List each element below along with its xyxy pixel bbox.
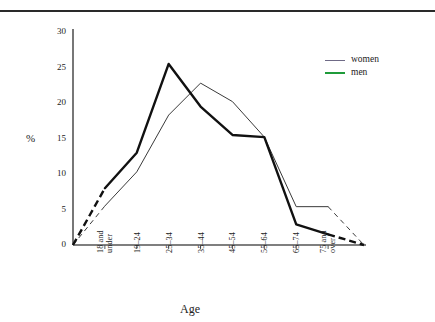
x-axis-tick-label-line: 18 and (96, 230, 105, 253)
legend-swatch-women (325, 60, 345, 61)
legend-label: men (351, 67, 367, 78)
y-axis-tick-label: 5 (44, 205, 66, 214)
top-horizontal-rule (0, 10, 435, 12)
y-axis-label: % (26, 132, 35, 144)
chart-legend: womenmen (325, 55, 425, 81)
x-axis-tick-label-line: over (328, 207, 337, 253)
y-axis-tick-label: 20 (44, 98, 66, 107)
x-axis-tick-label-line: 75 and (319, 230, 328, 253)
x-axis-tick-label: 55–64 (260, 232, 269, 253)
x-axis-tick-label-line: under (105, 207, 114, 253)
x-axis-tick-label: 65–74 (292, 232, 301, 253)
legend-item-women[interactable]: women (325, 55, 425, 66)
y-axis-tick-label: 15 (44, 134, 66, 143)
x-axis-tick-label-line: 55–64 (260, 232, 269, 253)
x-axis-tick-label: 25–34 (165, 232, 174, 253)
x-axis-tick-label: 18 andunder (96, 207, 114, 253)
x-axis-tick-label: 35–44 (197, 232, 206, 253)
y-axis-tick-label: 25 (44, 63, 66, 72)
y-axis-tick-label: 30 (44, 27, 66, 36)
legend-swatch-men (325, 72, 345, 74)
legend-item-men[interactable]: men (325, 68, 425, 79)
line-chart-figure: 302520151050 % 18 andunder19–2425–3435–4… (0, 14, 435, 322)
y-axis-tick-label: 10 (44, 169, 66, 178)
x-axis-tick-label-line: 35–44 (197, 232, 206, 253)
y-axis-tick-label: 0 (44, 240, 66, 249)
x-axis-tick-label: 45–54 (228, 232, 237, 253)
x-axis-tick-label-line: 25–34 (165, 232, 174, 253)
legend-label: women (351, 54, 379, 65)
x-axis-tick-label: 75 andover (319, 207, 337, 253)
x-axis-tick-label-line: 45–54 (228, 232, 237, 253)
x-axis-tick-label: 19–24 (133, 232, 142, 253)
x-axis-tick-label-line: 65–74 (292, 232, 301, 253)
x-axis-tick-label-line: 19–24 (133, 232, 142, 253)
series-line-men (105, 64, 328, 234)
figure-page: 302520151050 % 18 andunder19–2425–3435–4… (0, 0, 435, 322)
x-axis-label: Age (0, 302, 380, 317)
